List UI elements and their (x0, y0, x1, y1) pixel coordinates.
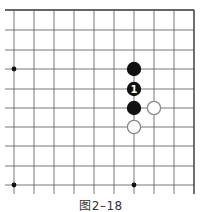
black-stone (127, 101, 141, 115)
star-point (12, 67, 17, 72)
white-stone (127, 120, 140, 133)
star-point (132, 183, 137, 188)
move-number-label: 1 (131, 84, 138, 95)
figure-caption: 图2–18 (0, 196, 202, 212)
stones: 1 (127, 62, 161, 134)
go-board-diagram: 1 (0, 0, 202, 196)
star-point (12, 183, 17, 188)
white-stone (147, 101, 160, 114)
black-stone: 1 (127, 82, 141, 96)
black-stone (127, 62, 141, 76)
board-grid (5, 10, 194, 194)
